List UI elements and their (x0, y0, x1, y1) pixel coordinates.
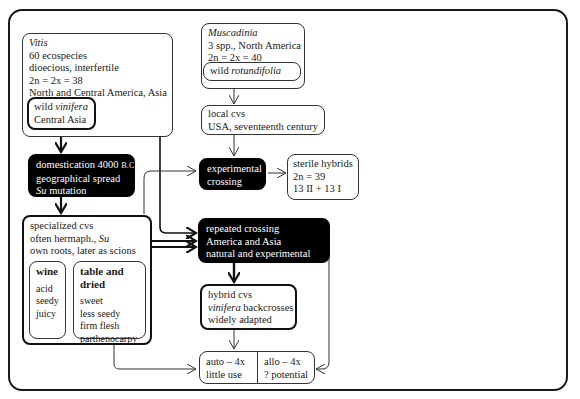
table-dried-trait: parthenocarpy (80, 333, 139, 346)
muscadinia-line: 3 spp., North America (208, 40, 298, 53)
su-gene: Su (99, 233, 110, 244)
specialized-line: own roots, later as scions (30, 245, 144, 258)
vinifera-name: vinifera (208, 302, 241, 313)
edge-specialized-experimental (144, 171, 196, 214)
sterile-line: 13 II + 13 I (293, 183, 353, 196)
domestication-line: mutation (47, 185, 87, 196)
node-sterile-hybrids: sterile hybrids 2n = 39 13 II + 13 I (287, 154, 359, 200)
node-local-cvs: local cvs USA, seventeenth century (201, 105, 325, 135)
auto-note: little use (206, 368, 251, 381)
edge-vitis-repeated (160, 136, 196, 233)
domestication-line: domestication 4000 (36, 159, 121, 170)
local-cvs-line: USA, seventeenth century (208, 121, 318, 134)
node-domestication: domestication 4000 B.C. geographical spr… (28, 154, 135, 197)
wild-rotundifolia-species: rotundifolia (231, 65, 281, 76)
specialized-line: often hermaph., (30, 233, 99, 244)
wild-vinifera-prefix: wild (34, 101, 55, 112)
wild-vinifera-species: vinifera (55, 101, 88, 112)
vitis-line: 60 ecospecies (29, 50, 166, 63)
muscadinia-title: Muscadinia (208, 27, 258, 38)
vitis-line: 2n = 2x = 38 (29, 75, 166, 88)
hybrid-line: backcrosses (241, 302, 294, 313)
table-dried-trait: sweet (80, 295, 139, 308)
polyploid-allo: allo – 4x ? potential (257, 352, 314, 383)
experimental-line: crossing (207, 176, 258, 189)
allo-label: allo – 4x (264, 355, 308, 368)
domestication-line: geographical spread (36, 173, 127, 186)
table-dried-trait: less seedy (80, 308, 139, 321)
vitis-title: Vitis (29, 37, 47, 48)
table-dried-trait: firm flesh (80, 320, 139, 333)
node-wine: wine acid seedy juicy (29, 261, 66, 339)
wine-trait: acid (36, 283, 59, 296)
su-gene: Su (36, 185, 47, 196)
repeated-line: natural and experimental (206, 248, 322, 261)
domestication-era: B.C. (121, 161, 137, 170)
node-polyploid: auto – 4x little use allo – 4x ? potenti… (199, 351, 315, 384)
specialized-line: specialized cvs (30, 220, 144, 233)
edge-specialized-polyploid (114, 344, 196, 369)
wine-trait: juicy (36, 308, 59, 321)
vitis-line: dioecious, interfertile (29, 62, 166, 75)
table-dried-heading: table and dried (80, 265, 139, 290)
sterile-line: sterile hybrids (293, 158, 353, 171)
node-wild-vinifera: wild vinifera Central Asia (27, 97, 96, 130)
hybrid-line: hybrid cvs (208, 289, 289, 302)
polyploid-auto: auto – 4x little use (200, 352, 257, 383)
wine-heading: wine (36, 265, 59, 278)
allo-note: ? potential (264, 368, 308, 381)
hybrid-line: widely adapted (208, 314, 289, 327)
node-experimental-crossing: experimental crossing (199, 158, 266, 190)
wild-rotundifolia-prefix: wild (210, 65, 231, 76)
local-cvs-line: local cvs (208, 108, 318, 121)
auto-label: auto – 4x (206, 355, 251, 368)
node-repeated-crossing: repeated crossing America and Asia natur… (198, 218, 330, 263)
wine-trait: seedy (36, 295, 59, 308)
node-table-dried: table and dried sweet less seedy firm fl… (73, 261, 146, 339)
node-hybrid-cvs: hybrid cvs vinifera backcrosses widely a… (200, 284, 297, 330)
node-wild-rotundifolia: wild rotundifolia (203, 62, 301, 81)
repeated-line: America and Asia (206, 236, 322, 249)
sterile-line: 2n = 39 (293, 171, 353, 184)
repeated-line: repeated crossing (206, 223, 322, 236)
wild-vinifera-region: Central Asia (34, 114, 89, 127)
experimental-line: experimental (207, 163, 258, 176)
